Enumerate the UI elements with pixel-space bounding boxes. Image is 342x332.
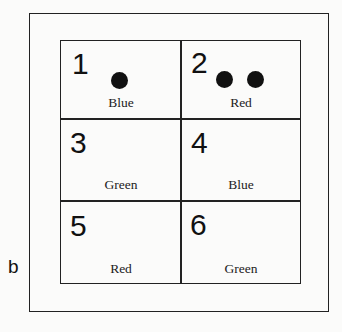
cell-color-label: Green: [61, 177, 181, 193]
cell-number: 1: [72, 49, 89, 79]
cell-number: 2: [191, 48, 208, 78]
cell-3: 3 Green: [61, 119, 181, 201]
cell-color-label: Blue: [181, 177, 301, 193]
dot-icon: [111, 72, 128, 89]
cell-2: 2 Red: [181, 41, 301, 119]
cell-color-label: Red: [61, 261, 181, 277]
cell-6: 6 Green: [181, 201, 301, 283]
cell-number: 3: [70, 128, 87, 158]
cell-5: 5 Red: [61, 201, 181, 283]
cell-color-label: Red: [181, 95, 301, 111]
cell-color-label: Green: [181, 261, 301, 277]
card-grid: 1 Blue 2 Red 3 Green 4 Blue 5 Red 6 Gree…: [60, 40, 301, 284]
panel-label: b: [8, 256, 19, 278]
cell-number: 4: [191, 128, 208, 158]
cell-number: 5: [70, 211, 87, 241]
dot-icon: [247, 71, 264, 88]
dot-icon: [216, 71, 233, 88]
cell-color-label: Blue: [61, 95, 181, 111]
cell-4: 4 Blue: [181, 119, 301, 201]
cell-1: 1 Blue: [61, 41, 181, 119]
cell-number: 6: [190, 210, 207, 240]
